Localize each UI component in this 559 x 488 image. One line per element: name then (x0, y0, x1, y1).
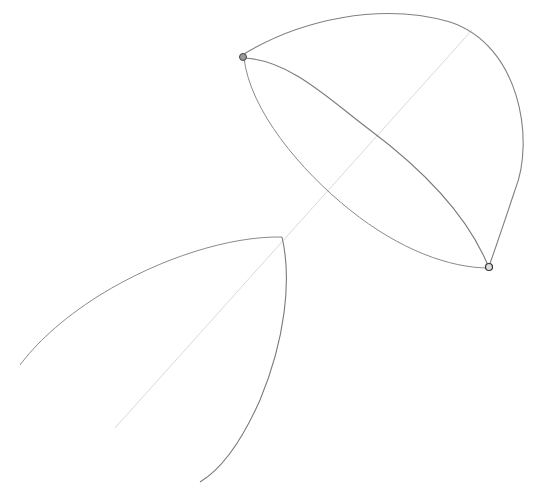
arch-right-curve (200, 237, 286, 482)
pencil-sketch (0, 0, 559, 488)
arch-left-curve (20, 237, 282, 365)
central-axis-line (115, 30, 472, 428)
pin-top-left-icon (240, 54, 247, 61)
pin-bottom-right-icon (486, 264, 493, 271)
